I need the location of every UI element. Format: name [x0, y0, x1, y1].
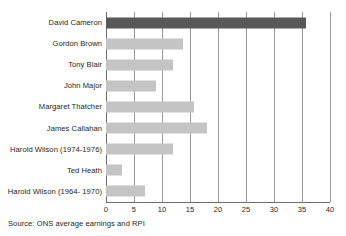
bar-row	[106, 181, 330, 202]
bar-row	[106, 33, 330, 54]
bar-row	[106, 54, 330, 75]
category-label-row: David Cameron	[0, 12, 102, 33]
bar-row	[106, 96, 330, 117]
category-label: Gordon Brown	[52, 39, 102, 48]
source-note: Source: ONS average earnings and RPI	[8, 219, 145, 228]
x-tick-10: 10	[158, 205, 167, 214]
x-tick-20: 20	[214, 205, 223, 214]
category-label: John Major	[64, 81, 102, 90]
category-label-row: James Callahan	[0, 118, 102, 139]
category-label-row: Ted Heath	[0, 160, 102, 181]
category-label-row: Margaret Thatcher	[0, 96, 102, 117]
x-tick-0: 0	[104, 205, 108, 214]
gridline-40	[330, 12, 331, 202]
bar-chart: David CameronGordon BrownTony BlairJohn …	[0, 0, 346, 236]
x-tick-5: 5	[132, 205, 136, 214]
category-label-row: Tony Blair	[0, 54, 102, 75]
bar	[106, 17, 306, 28]
category-label: Tony Blair	[68, 60, 102, 69]
bar-row	[106, 75, 330, 96]
bar	[106, 165, 122, 176]
category-label-row: Harold Wilson (1964- 1970)	[0, 181, 102, 202]
bar	[106, 144, 173, 155]
category-label: David Cameron	[49, 18, 102, 27]
category-label: Harold Wilson (1964- 1970)	[8, 187, 102, 196]
bar-row	[106, 139, 330, 160]
category-label-row: Harold Wilson (1974-1976)	[0, 139, 102, 160]
bar-row	[106, 160, 330, 181]
x-tick-15: 15	[186, 205, 195, 214]
bar-row	[106, 118, 330, 139]
bar	[106, 186, 145, 197]
x-tick-40: 40	[326, 205, 335, 214]
bar	[106, 101, 194, 112]
bar-row	[106, 12, 330, 33]
x-tick-30: 30	[270, 205, 279, 214]
category-label: Margaret Thatcher	[39, 102, 102, 111]
bar	[106, 80, 156, 91]
x-tick-25: 25	[242, 205, 251, 214]
x-axis-line	[106, 202, 330, 203]
category-label-row: Gordon Brown	[0, 33, 102, 54]
category-label-row: John Major	[0, 75, 102, 96]
plot-area	[106, 12, 330, 202]
bar	[106, 38, 183, 49]
bar	[106, 59, 173, 70]
x-tick-35: 35	[298, 205, 307, 214]
bar	[106, 123, 207, 134]
category-label: Harold Wilson (1974-1976)	[10, 145, 102, 154]
category-label: Ted Heath	[67, 166, 102, 175]
category-label: James Callahan	[47, 124, 102, 133]
